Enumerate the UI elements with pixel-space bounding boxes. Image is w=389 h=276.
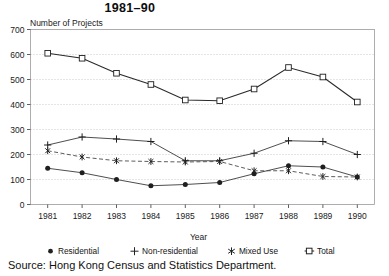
legend-item-total: Total (304, 246, 335, 256)
x-tick-label: 1983 (107, 211, 126, 221)
source-note: Source: Hong Kong Census and Statistics … (8, 259, 276, 271)
y-tick-label: 200 (10, 150, 24, 160)
legend-item-non-residential: Non-residential (129, 246, 198, 256)
x-axis-title: Year (0, 232, 389, 242)
x-tick-label: 1986 (210, 211, 229, 221)
y-tick-label: 600 (10, 50, 24, 60)
x-tick-label: 1989 (313, 211, 332, 221)
legend-label-total: Total (317, 246, 335, 256)
open-square-icon (304, 246, 315, 256)
filled-circle-icon (45, 246, 56, 256)
x-tick-label: 1990 (348, 211, 367, 221)
chart-figure: 1981–90 Number of Projects 0100200300400… (0, 0, 389, 276)
legend-item-residential: Residential (45, 246, 99, 256)
x-tick-label: 1981 (38, 211, 57, 221)
y-tick-label: 400 (10, 100, 24, 110)
x-tick-label: 1982 (73, 211, 92, 221)
x-tick-label: 1984 (141, 211, 160, 221)
chart-legend: Residential Non-residential Mixed Use To… (45, 246, 365, 256)
legend-item-mixed-use: Mixed Use (226, 246, 278, 256)
y-tick-label: 0 (20, 200, 25, 210)
y-tick-label: 500 (10, 75, 24, 85)
legend-label-non-residential: Non-residential (142, 246, 198, 256)
legend-label-mixed-use: Mixed Use (239, 246, 278, 256)
x-tick-label: 1987 (245, 211, 264, 221)
y-tick-label: 700 (10, 25, 24, 35)
x-axis-title-text: Year (182, 232, 207, 242)
legend-label-residential: Residential (58, 246, 99, 256)
y-tick-label: 300 (10, 125, 24, 135)
plus-icon (129, 246, 140, 256)
asterisk-icon (226, 246, 237, 256)
y-tick-label: 100 (10, 175, 24, 185)
x-tick-label: 1988 (279, 211, 298, 221)
x-tick-label: 1985 (176, 211, 195, 221)
plot-area: 0100200300400500600700198119821983198419… (0, 0, 389, 232)
